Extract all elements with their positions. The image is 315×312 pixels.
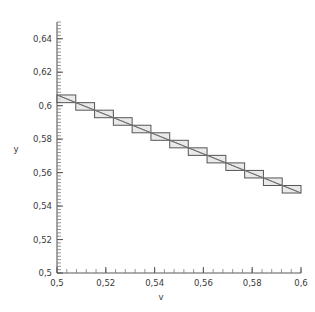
y-tick-label: 0,5 — [38, 268, 52, 278]
x-tick-label: 0,54 — [145, 278, 164, 288]
trend-diagonal-group — [57, 95, 301, 193]
y-tick-label: 0,62 — [33, 67, 52, 77]
x-axis-title: v — [158, 292, 163, 302]
y-tick-label: 0,54 — [33, 201, 52, 211]
trend-diagonal-line — [57, 95, 301, 193]
y-tick-labels: 0,50,520,540,560,580,60,620,64 — [33, 34, 52, 278]
x-minor-ticks — [57, 269, 301, 273]
y-tick-label: 0,6 — [38, 101, 52, 111]
x-tick-label: 0,52 — [96, 278, 115, 288]
y-minor-ticks — [57, 22, 61, 273]
y-tick-label: 0,64 — [33, 34, 52, 44]
y-tick-label: 0,52 — [33, 235, 52, 245]
y-axis-title: y — [13, 144, 18, 154]
x-tick-label: 0,58 — [243, 278, 262, 288]
chart-container: 0,50,520,540,560,580,6 0,50,520,540,560,… — [0, 0, 315, 312]
x-tick-label: 0,5 — [50, 278, 64, 288]
staircase-chart: 0,50,520,540,560,580,6 0,50,520,540,560,… — [0, 0, 315, 312]
x-tick-labels: 0,50,520,540,560,580,6 — [50, 278, 308, 288]
y-tick-label: 0,56 — [33, 168, 52, 178]
x-tick-label: 0,6 — [294, 278, 308, 288]
x-tick-label: 0,56 — [194, 278, 213, 288]
y-tick-label: 0,58 — [33, 134, 52, 144]
x-major-ticks — [57, 267, 301, 273]
